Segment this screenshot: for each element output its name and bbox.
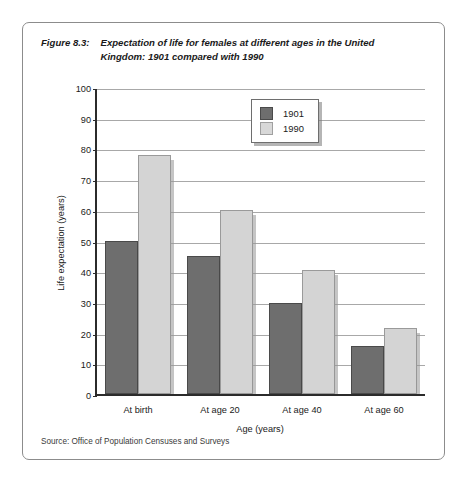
- y-tick-label-20: 20: [81, 330, 91, 340]
- source-note: Source: Office of Population Censuses an…: [41, 437, 229, 446]
- gridline-0: 0: [97, 396, 425, 397]
- bar-1901-at-birth: [105, 241, 138, 395]
- bar-group: At age 60: [343, 89, 425, 394]
- y-axis-title-text: Life expectation (years): [56, 195, 66, 291]
- bar-1901-at-age-20: [187, 256, 220, 394]
- bar-1990-at-age-60: [384, 328, 417, 394]
- x-tick-label-0: At birth: [97, 405, 179, 415]
- y-tick-label-90: 90: [81, 115, 91, 125]
- x-axis-title: Age (years): [95, 424, 425, 434]
- y-tick-label-50: 50: [81, 238, 91, 248]
- y-axis-title: Life expectation (years): [54, 89, 68, 396]
- page-title: Expectation of life for females at diffe…: [101, 36, 421, 63]
- bar-1901-at-age-60: [351, 346, 384, 394]
- bar-1901-at-age-40: [269, 303, 302, 394]
- y-tick-label-80: 80: [81, 145, 91, 155]
- y-tick-label-60: 60: [81, 207, 91, 217]
- legend-item-1901: 1901: [260, 106, 304, 121]
- x-tick-label-3: At age 60: [343, 405, 425, 415]
- legend-item-1990: 1990: [260, 121, 304, 136]
- y-tick-label-70: 70: [81, 176, 91, 186]
- figure-title-block: Figure 8.3: Expectation of life for fema…: [41, 36, 433, 63]
- figure-number-label: Figure 8.3:: [41, 36, 90, 50]
- legend-label-1901: 1901: [283, 108, 304, 119]
- x-tick-label-2: At age 40: [261, 405, 343, 415]
- bar-1990-at-age-20: [220, 210, 253, 394]
- legend-swatch-1901: [260, 107, 273, 120]
- y-tick-label-100: 100: [76, 84, 91, 94]
- legend-label-1990: 1990: [283, 123, 304, 134]
- bar-group: At age 20: [179, 89, 261, 394]
- y-tick-label-40: 40: [81, 268, 91, 278]
- legend-swatch-1990: [260, 122, 273, 135]
- figure-container: Figure 8.3: Expectation of life for fema…: [22, 22, 445, 460]
- y-tick-label-30: 30: [81, 299, 91, 309]
- bar-1990-at-age-40: [302, 270, 335, 394]
- x-tick-label-1: At age 20: [179, 405, 261, 415]
- y-tick-label-0: 0: [86, 391, 91, 401]
- y-tick-label-10: 10: [81, 360, 91, 370]
- y-tick-mark-0: [93, 396, 97, 397]
- chart-legend: 19011990: [251, 99, 319, 143]
- bar-group: At birth: [97, 89, 179, 394]
- bar-1990-at-birth: [138, 155, 171, 394]
